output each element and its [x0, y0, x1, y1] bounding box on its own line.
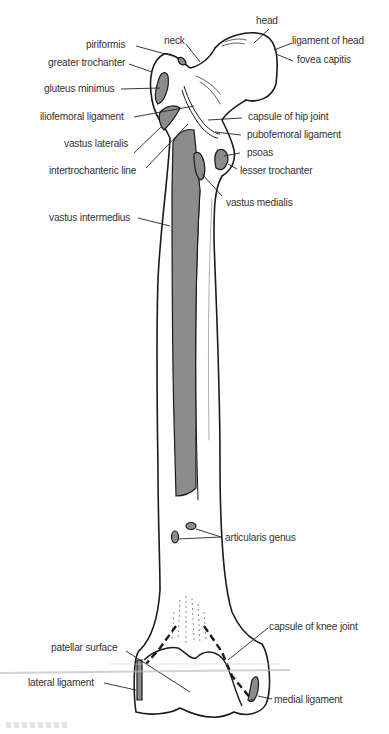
label-fovea-capitis: fovea capitis	[297, 53, 351, 66]
label-psoas: psoas	[247, 146, 273, 159]
label-vastus-lateralis: vastus lateralis	[64, 137, 128, 150]
vastus-intermedius-area	[172, 130, 200, 497]
articularis-genus-area-1	[172, 531, 179, 543]
label-gluteus-minimus: gluteus minimus	[44, 82, 114, 95]
piriformis-area	[178, 57, 186, 64]
label-neck: neck	[164, 34, 185, 47]
label-capsule-of-hip-joint: capsule of hip joint	[248, 110, 328, 123]
lateral-ligament-area	[137, 660, 142, 700]
label-patellar-surface: patellar surface	[51, 641, 117, 654]
label-piriformis: piriformis	[86, 38, 125, 51]
label-iliofemoral-ligament: iliofemoral ligament	[40, 110, 124, 123]
label-head: head	[256, 14, 278, 27]
label-articularis-genus: articularis genus	[225, 531, 296, 544]
psoas-area	[215, 149, 228, 169]
label-ligament-of-head: ligament of head	[292, 34, 364, 47]
label-medial-ligament: medial ligament	[274, 693, 342, 706]
label-vastus-intermedius: vastus intermedius	[49, 211, 130, 224]
label-vastus-medialis: vastus medialis	[226, 196, 293, 209]
femur-diagram: head ligament of head fovea capitis neck…	[0, 0, 389, 734]
label-lateral-ligament: lateral ligament	[28, 676, 94, 689]
label-pubofemoral-ligament: pubofemoral ligament	[247, 128, 341, 141]
articularis-genus-area-2	[186, 523, 196, 530]
label-lesser-trochanter: lesser trochanter	[240, 164, 312, 177]
label-capsule-of-knee-joint: capsule of knee joint	[269, 620, 358, 633]
label-greater-trochanter: greater trochanter	[48, 56, 125, 69]
label-intertrochanteric-line: intertrochanteric line	[49, 164, 136, 177]
illegible-caption	[6, 722, 68, 728]
